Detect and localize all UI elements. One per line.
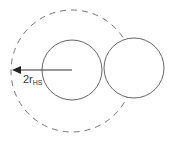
radius-label: 2rHS [23, 73, 43, 86]
arrow-head-icon [12, 66, 21, 74]
label-sub: HS [33, 79, 43, 86]
sphere-right [104, 38, 164, 98]
hard-sphere-diagram: 2rHS [0, 0, 175, 141]
label-main: 2r [23, 73, 33, 85]
diagram-svg [0, 0, 175, 141]
